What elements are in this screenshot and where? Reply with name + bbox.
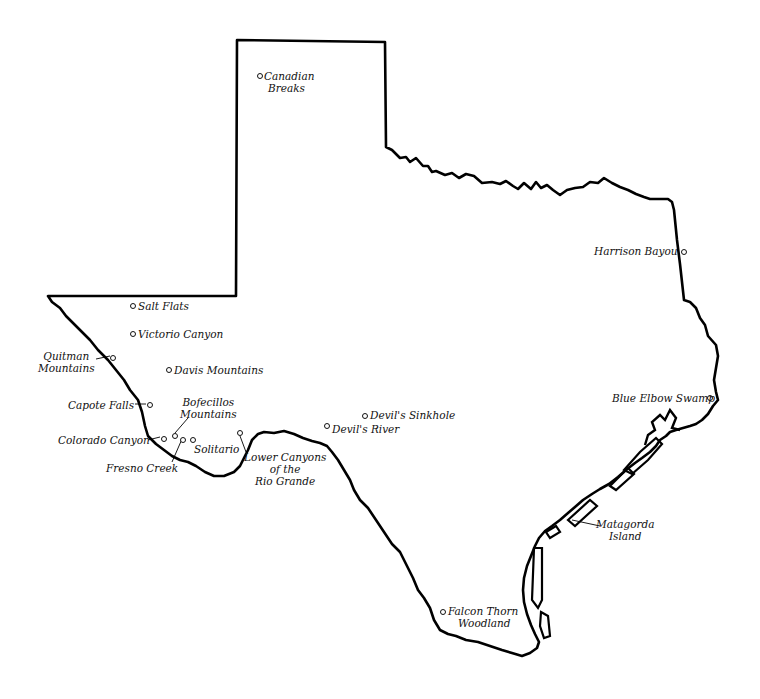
location-marker-bofecillos-mountains[interactable] xyxy=(172,433,178,439)
location-marker-devils-river[interactable] xyxy=(324,423,330,429)
label-capote-falls: Capote Falls xyxy=(68,399,134,411)
label-line: of the xyxy=(244,463,326,475)
location-marker-salt-flats[interactable] xyxy=(130,303,136,309)
label-line: Lower Canyons xyxy=(244,451,326,463)
label-harrison-bayou: Harrison Bayou xyxy=(594,245,678,257)
location-marker-victorio-canyon[interactable] xyxy=(130,331,136,337)
location-marker-falcon-thorn-woodland[interactable] xyxy=(440,609,446,615)
label-quitman-mountains: Quitman Mountains xyxy=(38,350,95,374)
label-line: Canadian xyxy=(264,70,314,82)
location-marker-quitman-mountains[interactable] xyxy=(110,355,116,361)
label-line: Falcon Thorn xyxy=(448,605,518,617)
location-marker-davis-mountains[interactable] xyxy=(166,367,172,373)
label-line: Island xyxy=(596,530,655,542)
label-devils-river: Devil's River xyxy=(332,423,399,435)
label-bofecillos-mountains: Bofecillos Mountains xyxy=(180,396,237,420)
label-fresno-creek: Fresno Creek xyxy=(106,462,178,474)
label-canadian-breaks: Canadian Breaks xyxy=(264,70,314,94)
label-line: Quitman xyxy=(38,350,95,362)
location-marker-harrison-bayou[interactable] xyxy=(681,249,687,255)
location-marker-lower-canyons[interactable] xyxy=(237,430,243,436)
label-salt-flats: Salt Flats xyxy=(138,300,189,312)
label-lower-canyons: Lower Canyons of the Rio Grande xyxy=(244,451,326,487)
location-marker-fresno-creek[interactable] xyxy=(180,437,186,443)
label-line: Breaks xyxy=(264,82,314,94)
label-line: Matagorda xyxy=(596,518,655,530)
label-victorio-canyon: Victorio Canyon xyxy=(138,328,223,340)
label-devils-sinkhole: Devil's Sinkhole xyxy=(370,409,455,421)
label-line: Rio Grande xyxy=(244,475,326,487)
label-blue-elbow-swamp: Blue Elbow Swamp xyxy=(612,392,715,404)
label-colorado-canyon: Colorado Canyon xyxy=(58,434,150,446)
label-solitario: Solitario xyxy=(194,443,239,455)
location-marker-devils-sinkhole[interactable] xyxy=(362,413,368,419)
label-line: Woodland xyxy=(448,617,518,629)
texas-map: Canadian Breaks Salt Flats Victorio Cany… xyxy=(0,0,760,699)
label-falcon-thorn-woodland: Falcon Thorn Woodland xyxy=(448,605,518,629)
label-line: Mountains xyxy=(38,362,95,374)
location-marker-colorado-canyon[interactable] xyxy=(161,436,167,442)
label-line: Mountains xyxy=(180,408,237,420)
texas-outline xyxy=(0,0,760,699)
label-matagorda-island: Matagorda Island xyxy=(596,518,655,542)
location-marker-capote-falls[interactable] xyxy=(147,402,153,408)
label-davis-mountains: Davis Mountains xyxy=(174,364,263,376)
label-line: Bofecillos xyxy=(180,396,237,408)
location-marker-canadian-breaks[interactable] xyxy=(257,73,263,79)
